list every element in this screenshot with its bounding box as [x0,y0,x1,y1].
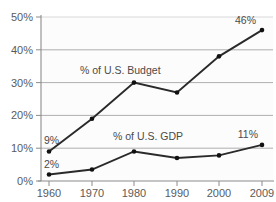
y-tick-marks [36,17,41,181]
annotation-gdp-end: 11% [238,128,258,140]
x-tick-label-1990: 1990 [165,187,189,199]
data-point-budget-2009 [260,28,265,33]
data-point-gdp-1960 [47,172,52,177]
y-tick-label-20: 20% [11,109,33,121]
annotation-budget-end: 46% [235,14,256,26]
line-chart: 50% 40% 30% 20% 10% 0% 1960 1970 1980 19… [0,0,276,202]
y-tick-label-50: 50% [11,11,33,23]
y-tick-label-0: 0% [17,175,33,187]
x-tick-label-1980: 1980 [122,187,146,199]
x-tick-marks [49,181,262,186]
annotation-gdp-start: 2% [44,158,59,170]
y-tick-label-10: 10% [11,142,33,154]
x-tick-label-2009: 2009 [250,187,274,199]
data-point-budget-1990 [175,90,180,95]
annotation-budget-start: 9% [44,134,59,146]
data-point-gdp-2000 [217,153,222,158]
data-point-gdp-1990 [175,156,180,161]
data-point-gdp-1980 [132,149,137,154]
series-label-gdp: % of U.S. GDP [113,130,183,142]
x-tick-label-1960: 1960 [37,187,61,199]
data-point-gdp-2009 [260,143,265,148]
chart-container: 50% 40% 30% 20% 10% 0% 1960 1970 1980 19… [0,0,276,202]
data-point-budget-1980 [132,80,137,85]
data-point-budget-1960 [47,149,52,154]
data-point-budget-1970 [90,116,95,121]
x-tick-label-1970: 1970 [80,187,104,199]
plot-background [41,17,273,181]
y-tick-label-30: 30% [11,77,33,89]
y-tick-label-40: 40% [11,44,33,56]
x-tick-label-2000: 2000 [207,187,231,199]
data-point-budget-2000 [217,54,222,59]
series-label-budget: % of U.S. Budget [80,64,161,76]
data-point-gdp-1970 [90,167,95,172]
